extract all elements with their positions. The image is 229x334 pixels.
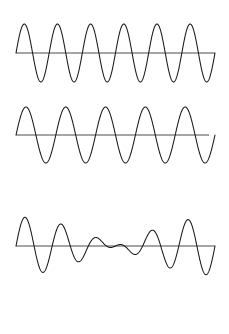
waveform-figure: [0, 0, 229, 334]
panel-wave-1: [16, 24, 215, 82]
waveform-canvas: [0, 0, 229, 334]
panel-wave-sum: [16, 217, 215, 274]
panel-wave-2: [16, 107, 215, 163]
